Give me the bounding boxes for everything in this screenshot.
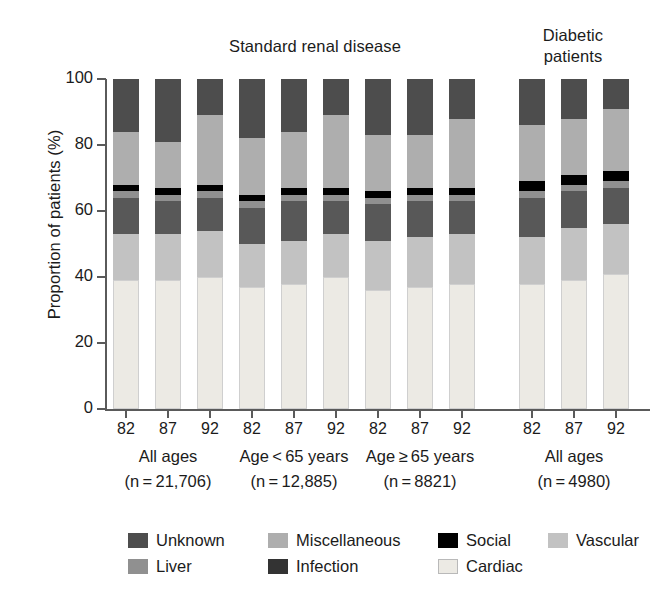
bar-segment-liver[interactable]: [323, 195, 349, 202]
bar-segment-vascular[interactable]: [155, 234, 181, 280]
bar-segment-miscellaneous[interactable]: [239, 138, 265, 194]
bar-segment-miscellaneous[interactable]: [449, 119, 475, 188]
bar-segment-cardiac[interactable]: [281, 284, 307, 409]
bar-segment-cardiac[interactable]: [449, 284, 475, 409]
bar-segment-unknown[interactable]: [281, 79, 307, 132]
bar-segment-miscellaneous[interactable]: [561, 119, 587, 175]
bar-segment-social[interactable]: [323, 188, 349, 195]
table-row[interactable]: [239, 79, 265, 409]
bar-segment-vascular[interactable]: [365, 241, 391, 291]
bar-segment-liver[interactable]: [519, 191, 545, 198]
bar-segment-unknown[interactable]: [407, 79, 433, 135]
bar-segment-cardiac[interactable]: [323, 277, 349, 409]
bar-segment-miscellaneous[interactable]: [407, 135, 433, 188]
bar-segment-cardiac[interactable]: [519, 284, 545, 409]
bar-segment-liver[interactable]: [281, 195, 307, 202]
bar-segment-cardiac[interactable]: [239, 287, 265, 409]
bar-segment-social[interactable]: [197, 185, 223, 192]
bar-segment-infection[interactable]: [561, 191, 587, 227]
bar-segment-social[interactable]: [365, 191, 391, 198]
bar-segment-vascular[interactable]: [239, 244, 265, 287]
bar-segment-vascular[interactable]: [323, 234, 349, 277]
bar-segment-unknown[interactable]: [365, 79, 391, 135]
bar-segment-social[interactable]: [407, 188, 433, 195]
bar-segment-infection[interactable]: [281, 201, 307, 241]
bar-segment-unknown[interactable]: [449, 79, 475, 119]
bar-segment-social[interactable]: [155, 188, 181, 195]
bar-segment-miscellaneous[interactable]: [197, 115, 223, 184]
bar-segment-liver[interactable]: [197, 191, 223, 198]
bar-segment-unknown[interactable]: [519, 79, 545, 125]
bar-segment-cardiac[interactable]: [197, 277, 223, 409]
bar-segment-infection[interactable]: [155, 201, 181, 234]
bar-segment-unknown[interactable]: [603, 79, 629, 109]
bar-segment-liver[interactable]: [365, 198, 391, 205]
table-row[interactable]: [603, 79, 629, 409]
bar-segment-infection[interactable]: [323, 201, 349, 234]
bar-segment-miscellaneous[interactable]: [155, 142, 181, 188]
bar-segment-cardiac[interactable]: [113, 280, 139, 409]
bar-segment-liver[interactable]: [407, 195, 433, 202]
table-row[interactable]: [323, 79, 349, 409]
bar-segment-vascular[interactable]: [113, 234, 139, 280]
bar-segment-vascular[interactable]: [561, 228, 587, 281]
legend-item-vascular[interactable]: Vascular: [548, 531, 639, 550]
bar-segment-social[interactable]: [519, 181, 545, 191]
bar-segment-liver[interactable]: [603, 181, 629, 188]
bar-segment-vascular[interactable]: [603, 224, 629, 274]
legend-item-infection[interactable]: Infection: [268, 557, 358, 576]
bar-segment-vascular[interactable]: [197, 231, 223, 277]
bar-segment-unknown[interactable]: [155, 79, 181, 142]
bar-segment-social[interactable]: [113, 185, 139, 192]
table-row[interactable]: [561, 79, 587, 409]
table-row[interactable]: [449, 79, 475, 409]
table-row[interactable]: [155, 79, 181, 409]
bar-segment-miscellaneous[interactable]: [323, 115, 349, 188]
legend-item-social[interactable]: Social: [438, 531, 511, 550]
table-row[interactable]: [197, 79, 223, 409]
legend-item-miscellaneous[interactable]: Miscellaneous: [268, 531, 401, 550]
table-row[interactable]: [407, 79, 433, 409]
bar-segment-liver[interactable]: [561, 185, 587, 192]
bar-segment-miscellaneous[interactable]: [281, 132, 307, 188]
table-row[interactable]: [519, 79, 545, 409]
bar-segment-miscellaneous[interactable]: [365, 135, 391, 191]
bar-segment-vascular[interactable]: [449, 234, 475, 284]
bar-segment-vascular[interactable]: [519, 237, 545, 283]
legend-item-liver[interactable]: Liver: [128, 557, 192, 576]
bar-segment-infection[interactable]: [239, 208, 265, 244]
bar-segment-infection[interactable]: [365, 204, 391, 240]
bar-segment-cardiac[interactable]: [407, 287, 433, 409]
bar-segment-unknown[interactable]: [197, 79, 223, 115]
bar-segment-liver[interactable]: [449, 195, 475, 202]
bar-segment-cardiac[interactable]: [365, 290, 391, 409]
bar-segment-social[interactable]: [603, 171, 629, 181]
bar-segment-infection[interactable]: [407, 201, 433, 237]
table-row[interactable]: [281, 79, 307, 409]
bar-segment-unknown[interactable]: [113, 79, 139, 132]
bar-segment-infection[interactable]: [113, 198, 139, 234]
bar-segment-miscellaneous[interactable]: [113, 132, 139, 185]
bar-segment-cardiac[interactable]: [155, 280, 181, 409]
table-row[interactable]: [365, 79, 391, 409]
legend-item-unknown[interactable]: Unknown: [128, 531, 225, 550]
bar-segment-liver[interactable]: [155, 195, 181, 202]
bar-segment-vascular[interactable]: [281, 241, 307, 284]
bar-segment-cardiac[interactable]: [603, 274, 629, 409]
bar-segment-infection[interactable]: [603, 188, 629, 224]
bar-segment-miscellaneous[interactable]: [603, 109, 629, 172]
bar-segment-infection[interactable]: [449, 201, 475, 234]
bar-segment-liver[interactable]: [239, 201, 265, 208]
bar-segment-unknown[interactable]: [323, 79, 349, 115]
bar-segment-infection[interactable]: [519, 198, 545, 238]
bar-segment-vascular[interactable]: [407, 237, 433, 287]
bar-segment-miscellaneous[interactable]: [519, 125, 545, 181]
bar-segment-social[interactable]: [561, 175, 587, 185]
bar-segment-social[interactable]: [239, 195, 265, 202]
bar-segment-social[interactable]: [449, 188, 475, 195]
bar-segment-social[interactable]: [281, 188, 307, 195]
table-row[interactable]: [113, 79, 139, 409]
bar-segment-liver[interactable]: [113, 191, 139, 198]
legend-item-cardiac[interactable]: Cardiac: [438, 557, 523, 576]
bar-segment-unknown[interactable]: [239, 79, 265, 138]
